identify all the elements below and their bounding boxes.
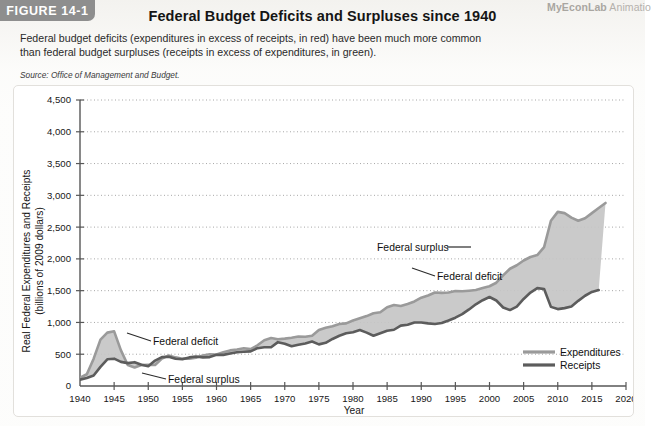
- legend-label-expenditures: Expenditures: [560, 347, 621, 358]
- figure-caption: Federal budget deficits (expenditures in…: [20, 31, 490, 59]
- y-tick-labels: 05001,0001,5002,0002,5003,0003,5004,0004…: [47, 94, 71, 391]
- x-tick-label: 2010: [547, 393, 568, 404]
- annotation-surplus-right-label: Federal surplus: [377, 242, 449, 253]
- x-tick-label: 2000: [479, 393, 500, 404]
- x-tick-label: 2020: [615, 393, 633, 404]
- x-tick-label: 1945: [103, 393, 124, 404]
- annotation-surplus-left: Federal surplus: [142, 373, 240, 385]
- chart-panel: 05001,0001,5002,0002,5003,0003,5004,0004…: [13, 85, 634, 417]
- x-tick-label: 1965: [240, 393, 261, 404]
- figure-number-badge: FIGURE 14-1: [0, 0, 95, 21]
- x-tick-label: 1985: [376, 393, 397, 404]
- budget-area-chart: 05001,0001,5002,0002,5003,0003,5004,0004…: [14, 86, 633, 416]
- y-tick-label: 1,500: [47, 285, 71, 296]
- y-tick-label: 3,500: [47, 158, 71, 169]
- chart-legend: Expenditures Receipts: [523, 347, 621, 371]
- x-tick-label: 1950: [138, 393, 159, 404]
- x-tick-label: 1960: [206, 393, 227, 404]
- figure-source: Source: Office of Management and Budget.: [20, 70, 180, 80]
- x-tick-labels: 1940194519501955196019651970197519801985…: [69, 393, 633, 404]
- annotation-deficit-left: Federal deficit: [127, 333, 218, 347]
- annotation-deficit-left-label: Federal deficit: [153, 336, 218, 347]
- annotation-surplus-left-label: Federal surplus: [168, 374, 240, 385]
- y-tick-label: 4,500: [47, 94, 71, 105]
- y-tick-label: 4,000: [47, 126, 71, 137]
- x-tick-label: 1940: [69, 393, 90, 404]
- y-tick-label: 2,000: [47, 253, 71, 264]
- y-tick-label: 3,000: [47, 190, 71, 201]
- myeconlab-product: MyEconLab: [547, 1, 607, 13]
- y-tick-label: 500: [55, 349, 71, 360]
- y-tick-label: 0: [66, 380, 71, 391]
- x-tick-label: 1995: [445, 393, 466, 404]
- y-tick-label: 2,500: [47, 222, 71, 233]
- x-tick-label: 2005: [513, 393, 534, 404]
- myeconlab-label: Animatio: [609, 1, 651, 13]
- annotation-deficit-right: Federal deficit: [412, 268, 502, 282]
- y-tick-label: 1,000: [47, 317, 71, 328]
- x-axis-title: Year: [344, 405, 365, 416]
- x-tick-label: 1970: [274, 393, 295, 404]
- legend-label-receipts: Receipts: [560, 360, 600, 371]
- x-tick-label: 2015: [581, 393, 602, 404]
- gridlines: [76, 100, 626, 354]
- x-tick-label: 1990: [411, 393, 432, 404]
- y-axis-title-line2: (billions of 2009 dollars): [34, 207, 45, 315]
- y-axis-title-line1: Real Federal Expenditures and Receipts: [21, 170, 32, 353]
- annotation-surplus-right: Federal surplus: [377, 242, 471, 253]
- x-tick-label: 1975: [308, 393, 329, 404]
- myeconlab-mark: MyEconLab Animatio: [547, 1, 651, 13]
- annotation-deficit-right-label: Federal deficit: [437, 271, 502, 282]
- x-tick-label: 1955: [172, 393, 193, 404]
- x-tick-label: 1980: [342, 393, 363, 404]
